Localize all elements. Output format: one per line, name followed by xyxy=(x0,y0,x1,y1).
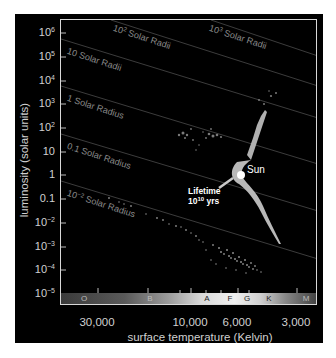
lifetime-pointer xyxy=(219,178,233,188)
spectral-class-a: A xyxy=(204,293,209,304)
spectral-class-m: M xyxy=(303,293,310,304)
y-axis-title: luminosity (solar units) xyxy=(18,103,30,217)
spectral-class-k: K xyxy=(266,293,271,304)
plot-area: 103 Solar Radii 102 Solar Radii 10 Solar… xyxy=(60,19,317,305)
red-giant-branch xyxy=(247,110,267,160)
x-axis-title: surface temperature (Kelvin) xyxy=(127,331,272,343)
y-tick-label: 102 xyxy=(39,122,55,133)
y-tick-label: 0.1 xyxy=(40,193,55,204)
spectral-class-bar: O B A F G K M xyxy=(61,293,316,304)
x-tick-label: 6,000 xyxy=(223,316,252,328)
sun-label: Sun xyxy=(247,164,265,175)
lifetime-label: Lifetime 1010 yrs xyxy=(188,186,221,206)
y-tick-label: 10−3 xyxy=(35,241,55,252)
spectral-class-g: G xyxy=(244,293,250,304)
y-tick-label: 103 xyxy=(39,98,55,109)
x-tick-label: 10,000 xyxy=(172,316,207,328)
y-tick-label: 10−4 xyxy=(35,264,55,275)
spectral-class-o: O xyxy=(81,293,87,304)
y-tick-label: 105 xyxy=(39,51,55,62)
y-tick-label: 106 xyxy=(39,27,55,38)
y-tick-label: 10−5 xyxy=(35,288,55,299)
sun-marker xyxy=(237,171,245,179)
spectral-class-b: B xyxy=(147,293,152,304)
x-tick-label: 30,000 xyxy=(79,316,114,328)
y-tick-label: 10−2 xyxy=(35,217,55,228)
y-tick-label: 1 xyxy=(49,169,55,180)
y-tick-label: 104 xyxy=(39,75,55,86)
x-tick-label: 3,000 xyxy=(282,316,311,328)
y-tick-label: 10 xyxy=(43,146,55,157)
y-ticks xyxy=(61,33,66,294)
spectral-class-f: F xyxy=(228,293,233,304)
